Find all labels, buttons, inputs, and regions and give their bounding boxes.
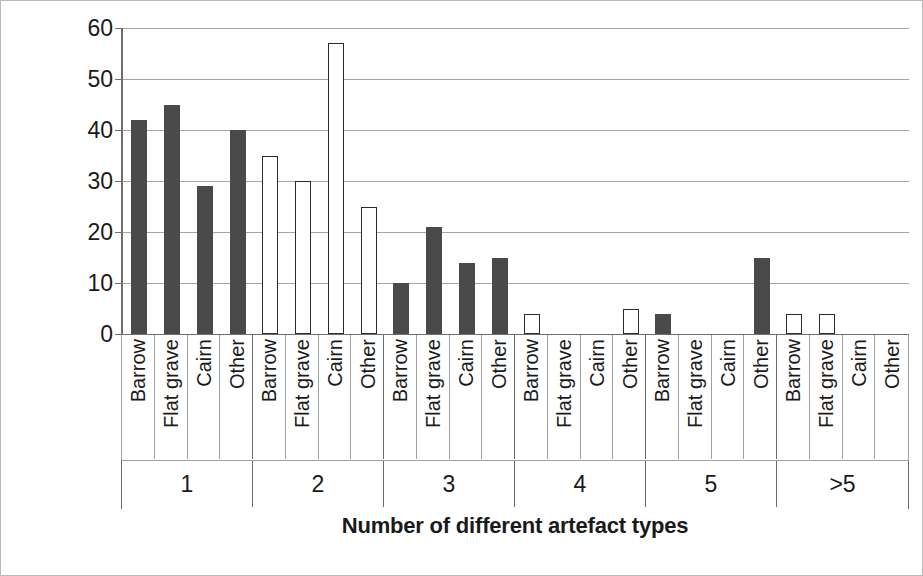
bar: [623, 309, 639, 335]
bar-cell: [778, 28, 811, 334]
group-label-5: 5: [646, 461, 777, 507]
bar-cell: [483, 28, 516, 334]
bar-cell: [876, 28, 909, 334]
category-label: Cairn: [192, 337, 216, 459]
category-label-cell: Cairn: [712, 335, 745, 459]
category-label: Barrow: [126, 337, 150, 459]
category-label: Other: [880, 337, 904, 459]
category-label: Flat grave: [290, 337, 314, 459]
x-axis-title: Number of different artefact types: [121, 509, 909, 543]
bar: [131, 120, 147, 334]
bar-cell: [811, 28, 844, 334]
bar: [295, 181, 311, 334]
bar-cell: [352, 28, 385, 334]
bar-cell: [516, 28, 549, 334]
category-label: Other: [487, 337, 511, 459]
bar-cell: [287, 28, 320, 334]
bar: [426, 227, 442, 334]
category-label: Barrow: [519, 337, 543, 459]
bar: [655, 314, 671, 334]
bar-cell: [549, 28, 582, 334]
bar: [459, 263, 475, 334]
category-label: Cairn: [454, 337, 478, 459]
bar-cell: [418, 28, 451, 334]
y-tick-label-0: 0: [67, 323, 113, 346]
category-label-cell: Cairn: [450, 335, 483, 459]
bar-cell: [254, 28, 287, 334]
y-tick-mark-40: [115, 130, 123, 131]
y-tick-label-40: 40: [67, 119, 113, 142]
bar: [393, 283, 409, 334]
bar-cell: [221, 28, 254, 334]
bar-cell: [320, 28, 353, 334]
group-label-1: 1: [122, 461, 253, 507]
category-label-cell: Cairn: [319, 335, 352, 459]
bar-cell: [647, 28, 680, 334]
category-label-cell: Flat grave: [679, 335, 712, 459]
bar: [819, 314, 835, 334]
bar: [328, 43, 344, 334]
category-label: Other: [618, 337, 642, 459]
category-label: Cairn: [585, 337, 609, 459]
bar: [197, 186, 213, 334]
bar-cell: [745, 28, 778, 334]
category-label: Other: [225, 337, 249, 459]
category-label-cell: Barrow: [384, 335, 417, 459]
bar: [754, 258, 770, 335]
category-label: Barrow: [257, 337, 281, 459]
bar-cell: [156, 28, 189, 334]
category-label-cell: Other: [613, 335, 646, 459]
bar-chart-figure: Percentage of burials 0102030405060 Barr…: [0, 0, 923, 576]
bar-cell: [680, 28, 713, 334]
category-label-cell: Other: [744, 335, 777, 459]
bar-cell: [713, 28, 746, 334]
y-tick-mark-50: [115, 79, 123, 80]
bar: [230, 130, 246, 334]
bar: [524, 314, 540, 334]
y-tick-label-10: 10: [67, 272, 113, 295]
bar: [164, 105, 180, 335]
category-label-cell: Cairn: [843, 335, 876, 459]
group-label->5: >5: [777, 461, 908, 507]
y-tick-label-30: 30: [67, 170, 113, 193]
y-tick-label-20: 20: [67, 221, 113, 244]
category-label-cell: Flat grave: [417, 335, 450, 459]
category-label: Flat grave: [814, 337, 838, 459]
category-label-cell: Flat grave: [286, 335, 319, 459]
y-tick-mark-20: [115, 232, 123, 233]
category-label-cell: Other: [351, 335, 384, 459]
bar-cell: [451, 28, 484, 334]
category-label-cell: Barrow: [515, 335, 548, 459]
plot-area: [121, 28, 909, 334]
y-tick-mark-30: [115, 181, 123, 182]
category-label-cell: Barrow: [122, 335, 155, 459]
category-label-cell: Other: [220, 335, 253, 459]
category-label-cell: Other: [482, 335, 515, 459]
bar-cell: [123, 28, 156, 334]
category-label: Barrow: [388, 337, 412, 459]
category-label: Cairn: [716, 337, 740, 459]
category-label: Flat grave: [683, 337, 707, 459]
category-label: Other: [749, 337, 773, 459]
y-tick-label-50: 50: [67, 68, 113, 91]
bar: [786, 314, 802, 334]
y-tick-mark-10: [115, 283, 123, 284]
y-tick-label-60: 60: [67, 17, 113, 40]
bar-cell: [189, 28, 222, 334]
bar-cell: [385, 28, 418, 334]
bar-cell: [614, 28, 647, 334]
category-label: Cairn: [847, 337, 871, 459]
group-label-4: 4: [515, 461, 646, 507]
category-label: Other: [356, 337, 380, 459]
category-label: Barrow: [650, 337, 674, 459]
category-label-cell: Flat grave: [155, 335, 188, 459]
bar: [361, 207, 377, 335]
category-label-cell: Barrow: [777, 335, 810, 459]
category-label: Flat grave: [421, 337, 445, 459]
category-label-cell: Cairn: [581, 335, 614, 459]
category-label-cell: Cairn: [188, 335, 221, 459]
category-label-cell: Flat grave: [548, 335, 581, 459]
bar: [262, 156, 278, 335]
category-label: Cairn: [323, 337, 347, 459]
bar-cell: [844, 28, 877, 334]
